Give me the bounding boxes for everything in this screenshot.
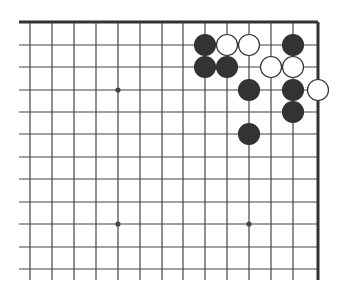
black-stone: [239, 80, 260, 101]
black-stone: [283, 102, 304, 123]
black-stone: [283, 35, 304, 56]
black-stone: [283, 80, 304, 101]
white-stone: [239, 35, 260, 56]
black-stone: [195, 35, 216, 56]
go-board: [0, 0, 344, 298]
white-stone: [283, 57, 304, 78]
white-stone: [261, 57, 282, 78]
white-stone: [217, 35, 238, 56]
star-point: [246, 221, 251, 226]
black-stone: [239, 124, 260, 145]
black-stone: [195, 57, 216, 78]
white-stone: [308, 80, 329, 101]
star-point: [115, 87, 120, 92]
black-stone: [217, 57, 238, 78]
star-point: [115, 221, 120, 226]
